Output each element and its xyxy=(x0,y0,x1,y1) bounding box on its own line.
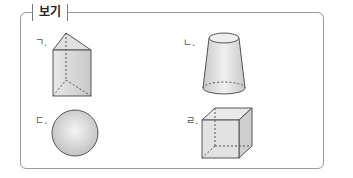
truncated-cone-icon xyxy=(200,30,248,100)
example-title: 보기 xyxy=(32,4,68,21)
cube-icon xyxy=(200,106,256,162)
sphere-icon xyxy=(50,108,100,158)
triangular-prism-icon xyxy=(48,30,98,100)
item-label-4: ㄹ. xyxy=(186,112,198,127)
item-label-1: ㄱ. xyxy=(35,34,47,49)
item-label-2: ㄴ. xyxy=(183,34,195,49)
item-label-3: ㄷ. xyxy=(35,112,47,127)
